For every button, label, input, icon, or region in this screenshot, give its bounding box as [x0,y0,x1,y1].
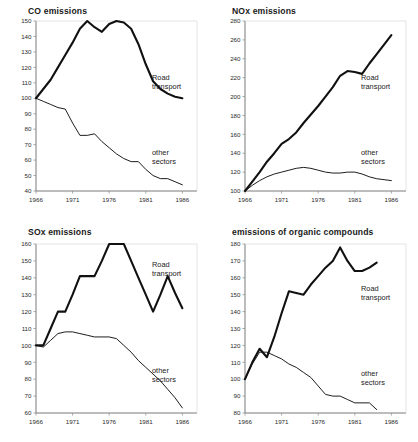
svg-text:other: other [152,366,169,375]
x-tick-label: 1971 [66,196,80,203]
x-tick-label: 1966 [29,196,43,203]
y-tick-label: 140 [21,274,32,281]
y-tick-label: 70 [25,392,32,399]
svg-text:transport: transport [152,269,181,278]
y-tick-label: 180 [230,240,241,247]
x-tick-label: 1986 [384,196,398,203]
y-tick-label: 110 [231,359,241,366]
y-tick-label: 60 [25,156,32,163]
series-label-road-transport: Roadtransport [361,73,390,91]
x-tick-label: 1986 [175,418,189,425]
svg-text:transport: transport [361,293,390,302]
y-tick-label: 90 [25,110,32,117]
series-label-other-sectors: othersectors [361,148,385,166]
y-tick-label: 100 [230,187,241,194]
chart-panel-organic: emissions of organic compounds 809010011… [209,221,418,442]
y-tick-label: 260 [230,36,241,43]
series-label-road-transport: Roadtransport [152,73,181,91]
y-tick-label: 240 [230,55,241,62]
chart-plot-sox: 6070809010011012013014015016019661971197… [0,221,209,442]
x-tick-label: 1976 [311,418,325,425]
y-tick-label: 150 [21,17,32,24]
svg-text:transport: transport [361,82,390,91]
y-tick-label: 160 [21,240,32,247]
y-tick-label: 40 [25,187,32,194]
chart-plot-co: 4050607080901001101201301401501966197119… [0,0,209,221]
y-tick-label: 140 [230,308,241,315]
chart-panel-co: CO emissions 405060708090100110120130140… [0,0,209,221]
y-tick-label: 120 [230,168,241,175]
svg-text:other: other [152,148,169,157]
y-tick-label: 140 [230,149,241,156]
x-tick-label: 1986 [384,418,398,425]
series-line-road-transport [245,35,391,191]
svg-text:other: other [361,148,378,157]
x-tick-label: 1976 [102,196,116,203]
svg-text:transport: transport [152,82,181,91]
x-tick-label: 1971 [275,418,289,425]
y-tick-label: 80 [25,375,32,382]
x-tick-label: 1971 [275,196,289,203]
charts-grid: CO emissions 405060708090100110120130140… [0,0,418,442]
y-tick-label: 150 [230,291,241,298]
series-line-other-sectors [36,98,182,185]
x-tick-label: 1981 [139,418,153,425]
y-tick-label: 170 [230,257,241,264]
y-tick-label: 100 [21,342,32,349]
y-tick-label: 220 [230,74,241,81]
x-tick-label: 1971 [66,418,80,425]
y-tick-label: 120 [21,308,32,315]
chart-panel-sox: SOx emissions 60708090100110120130140150… [0,221,209,442]
x-tick-label: 1981 [348,196,362,203]
y-tick-label: 80 [25,125,32,132]
y-tick-label: 130 [21,48,32,55]
svg-text:Road: Road [152,260,170,269]
x-tick-label: 1986 [175,196,189,203]
y-tick-label: 110 [22,325,32,332]
svg-text:sectors: sectors [152,375,176,384]
x-tick-label: 1976 [311,196,325,203]
svg-text:Road: Road [361,284,379,293]
chart-plot-nox: 1001201401601802002202402602801966197119… [209,0,418,221]
x-tick-label: 1966 [238,196,252,203]
x-tick-label: 1966 [238,418,252,425]
series-label-road-transport: Roadtransport [361,284,390,302]
x-tick-label: 1966 [29,418,43,425]
x-tick-label: 1976 [102,418,116,425]
series-label-other-sectors: othersectors [152,148,176,166]
y-tick-label: 120 [230,342,241,349]
y-tick-label: 130 [21,291,32,298]
series-label-other-sectors: othersectors [152,366,176,384]
series-label-other-sectors: othersectors [361,369,385,387]
y-tick-label: 90 [25,359,32,366]
series-line-other-sectors [245,352,377,409]
y-tick-label: 130 [230,325,241,332]
y-tick-label: 110 [22,79,32,86]
y-tick-label: 120 [21,64,32,71]
series-label-road-transport: Roadtransport [152,260,181,278]
x-tick-label: 1981 [348,418,362,425]
y-tick-label: 200 [230,93,241,100]
y-tick-label: 60 [25,409,32,416]
svg-text:sectors: sectors [152,157,176,166]
x-tick-label: 1981 [139,196,153,203]
y-tick-label: 80 [234,409,241,416]
series-line-road-transport [245,247,377,379]
y-tick-label: 50 [25,172,32,179]
y-tick-label: 100 [230,375,241,382]
y-tick-label: 160 [230,131,241,138]
y-tick-label: 140 [21,33,32,40]
svg-text:sectors: sectors [361,157,385,166]
chart-plot-organic: 8090100110120130140150160170180196619711… [209,221,418,442]
y-tick-label: 280 [230,17,241,24]
svg-text:other: other [361,369,378,378]
y-tick-label: 100 [21,94,32,101]
svg-text:sectors: sectors [361,378,385,387]
y-tick-label: 160 [230,274,241,281]
svg-text:Road: Road [361,73,379,82]
y-tick-label: 70 [25,141,32,148]
y-tick-label: 90 [234,392,241,399]
y-tick-label: 180 [230,112,241,119]
series-line-other-sectors [245,167,391,191]
chart-panel-nox: NOx emissions 10012014016018020022024026… [209,0,418,221]
